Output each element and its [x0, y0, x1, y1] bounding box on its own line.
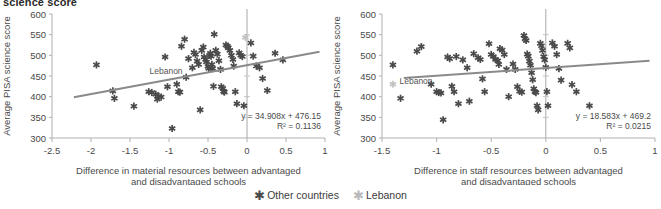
data-point [248, 39, 254, 46]
data-point [573, 88, 579, 95]
regression-equation: y = 34.908x + 476.15 [241, 111, 321, 121]
data-point [479, 75, 485, 82]
data-point-lebanon [390, 81, 396, 88]
data-point [558, 77, 564, 84]
data-point [466, 98, 472, 105]
y-axis-title: Average PISA science score [331, 16, 342, 136]
x-axis-tick-label: 0.5 [594, 145, 607, 156]
x-axis-tick-label: 0 [543, 145, 548, 156]
x-axis-tick-label: -0.5 [200, 145, 216, 156]
scatter-plot-material-resources: 300350400450500550600-2.5-2-1.5-1-0.500.… [0, 0, 331, 185]
data-point [460, 56, 466, 63]
x-axis-tick-label: 1 [322, 145, 327, 156]
data-point [440, 116, 446, 123]
regression-r-squared: R² = 0.0215 [606, 121, 651, 131]
x-axis-title-line2: and disadvantaged schools [131, 176, 246, 185]
x-axis-tick-label: -1 [165, 145, 173, 156]
y-axis-tick-label: 500 [30, 50, 46, 61]
x-axis-tick-label: -1.5 [122, 145, 138, 156]
y-axis-tick-label: 300 [360, 133, 376, 144]
data-point [482, 88, 488, 95]
y-axis-tick-label: 450 [360, 71, 376, 82]
y-axis-tick-label: 300 [30, 133, 46, 144]
data-point [234, 100, 240, 107]
y-axis-tick-label: 550 [360, 29, 376, 40]
scatter-plot-staff-resources: 300350400450500550600-1.5-1-0.500.51Leba… [330, 0, 661, 185]
figure-legend: ✱ Other countries ✱ Lebanon [0, 186, 661, 204]
x-axis-tick-label: 1 [652, 145, 657, 156]
y-axis-tick-label: 450 [30, 71, 46, 82]
trendline-lebanon-label: Lebanon [399, 76, 432, 86]
data-point [241, 102, 247, 109]
y-axis-tick-label: 400 [360, 91, 376, 102]
y-axis-tick-label: 500 [360, 50, 376, 61]
asterisk-icon: ✱ [353, 190, 362, 201]
data-point [189, 64, 195, 71]
y-axis-tick-label: 600 [30, 9, 46, 20]
y-axis-tick-label: 550 [30, 29, 46, 40]
data-point [455, 100, 461, 107]
data-point [272, 50, 278, 57]
x-axis-tick-label: -1 [432, 145, 440, 156]
data-point [586, 102, 592, 109]
trendline-lebanon-label: Lebanon [150, 66, 183, 76]
chart-panel-material-resources: 300350400450500550600-2.5-2-1.5-1-0.500.… [0, 0, 331, 209]
figure-container: science score 300350400450500550600-2.5-… [0, 0, 661, 209]
data-point [554, 51, 560, 58]
data-point [169, 125, 175, 132]
regression-r-squared: R² = 0.1136 [277, 121, 321, 131]
data-point [131, 103, 137, 110]
y-axis-title: Average PISA science score [1, 16, 12, 136]
x-axis-tick-label: -2 [87, 145, 95, 156]
x-axis-title-line2: and disadvantaged schools [461, 176, 576, 185]
data-point [544, 88, 550, 95]
data-point [185, 55, 191, 62]
data-point [259, 75, 265, 82]
asterisk-icon: ✱ [254, 190, 263, 201]
data-point [453, 53, 459, 60]
data-point [232, 88, 238, 95]
legend-label-lebanon: Lebanon [366, 189, 407, 201]
x-axis-title: Difference in staff resources between ad… [414, 165, 623, 176]
y-axis-tick-label: 350 [30, 112, 46, 123]
data-point [93, 61, 99, 68]
x-axis-title: Difference in material resources between… [76, 165, 301, 176]
y-axis-tick-label: 600 [360, 9, 376, 20]
data-point [486, 40, 492, 47]
data-point [162, 53, 168, 60]
data-point [174, 81, 180, 88]
chart-panel-staff-resources: 300350400450500550600-1.5-1-0.500.51Leba… [330, 0, 661, 209]
regression-equation: y = 18.583x + 469.2 [576, 111, 651, 121]
data-point [111, 95, 117, 102]
x-axis-tick-label: 0.5 [279, 145, 292, 156]
data-point [530, 76, 536, 83]
data-point [264, 87, 270, 94]
y-axis-tick-label: 350 [360, 112, 376, 123]
data-point [210, 83, 216, 90]
data-point [178, 43, 184, 50]
legend-item-lebanon: ✱ Lebanon [353, 189, 407, 201]
data-point [250, 53, 256, 60]
x-axis-tick-label: -1.5 [374, 145, 390, 156]
data-point [181, 36, 187, 43]
data-point [397, 95, 403, 102]
x-axis-tick-label: -0.5 [483, 145, 499, 156]
x-axis-tick-label: -2.5 [44, 145, 60, 156]
x-axis-tick-label: 0 [244, 145, 249, 156]
data-point [164, 83, 170, 90]
data-point [464, 64, 470, 71]
data-point [211, 31, 217, 38]
data-point [539, 47, 545, 54]
legend-label-other-countries: Other countries [267, 189, 339, 201]
legend-item-other-countries: ✱ Other countries [254, 189, 339, 201]
data-point [569, 81, 575, 88]
y-axis-tick-label: 400 [30, 91, 46, 102]
data-point [197, 106, 203, 113]
data-point [506, 93, 512, 100]
data-point [390, 61, 396, 68]
data-point [216, 57, 222, 64]
